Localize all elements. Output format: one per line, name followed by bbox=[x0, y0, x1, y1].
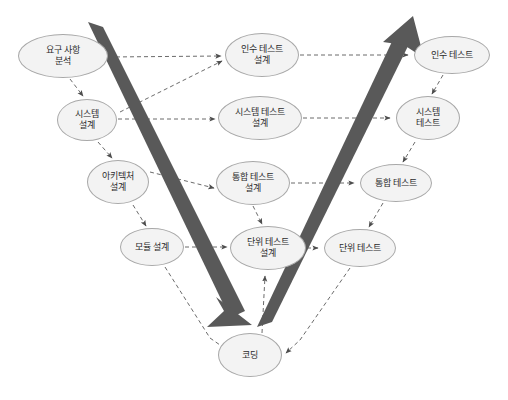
node-label: 시스템 테스트 bbox=[412, 107, 444, 129]
node-integration-test[interactable]: 통합 테스트 bbox=[360, 164, 432, 202]
node-architecture-design[interactable]: 아키텍처 설계 bbox=[87, 160, 149, 204]
node-system-test-design[interactable]: 시스템 테스트 설계 bbox=[218, 96, 302, 140]
node-acceptance-test-design[interactable]: 인수 테스트 설계 bbox=[225, 33, 299, 77]
node-label: 시스템 설계 bbox=[71, 109, 103, 131]
node-label: 아키텍처 설계 bbox=[98, 171, 138, 193]
node-unit-test[interactable]: 단위 테스트 bbox=[324, 229, 396, 267]
edge-requirements-to-acceptance-test-design bbox=[109, 56, 221, 57]
node-label: 단위 테스트 설계 bbox=[243, 237, 293, 259]
node-unit-test-design[interactable]: 단위 테스트 설계 bbox=[230, 226, 306, 270]
node-label: 요구 사항 분석 bbox=[42, 45, 84, 67]
edge-acceptance-test-to-system-test bbox=[432, 75, 443, 94]
edge-requirements-to-system-design bbox=[70, 79, 83, 96]
node-label: 인수 테스트 설계 bbox=[237, 44, 287, 66]
node-label: 시스템 테스트 설계 bbox=[231, 107, 289, 129]
edge-system-test-to-integration-test bbox=[403, 142, 415, 162]
edge-architecture-to-module-design bbox=[133, 205, 146, 226]
node-coding[interactable]: 코딩 bbox=[218, 333, 282, 377]
edge-integration-test-design-to-unit-test-design bbox=[253, 206, 262, 224]
node-module-design[interactable]: 모듈 설계 bbox=[120, 228, 184, 266]
node-label: 통합 테스트 설계 bbox=[228, 172, 278, 194]
edge-integration-test-to-unit-test bbox=[369, 203, 383, 227]
node-requirements-analysis[interactable]: 요구 사항 분석 bbox=[18, 34, 108, 78]
node-label: 코딩 bbox=[238, 350, 262, 361]
v-model-diagram: 요구 사항 분석 시스템 설계 아키텍처 설계 모듈 설계 인수 테스트 설계 … bbox=[0, 0, 508, 400]
edge-system-design-to-architecture bbox=[98, 142, 112, 158]
node-label: 통합 테스트 bbox=[371, 178, 421, 189]
node-label: 인수 테스트 bbox=[427, 50, 477, 61]
node-label: 단위 테스트 bbox=[335, 243, 385, 254]
node-integration-test-design[interactable]: 통합 테스트 설계 bbox=[216, 161, 290, 205]
node-label: 모듈 설계 bbox=[131, 242, 173, 253]
edge-unit-test-to-coding bbox=[286, 268, 350, 353]
node-system-test[interactable]: 시스템 테스트 bbox=[396, 96, 460, 140]
node-acceptance-test[interactable]: 인수 테스트 bbox=[414, 36, 490, 74]
node-system-design[interactable]: 시스템 설계 bbox=[57, 99, 117, 141]
